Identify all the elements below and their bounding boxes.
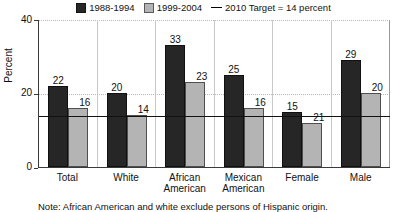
bar-value-label: 22 bbox=[53, 75, 64, 86]
bars-male: 29 20 bbox=[332, 20, 391, 167]
y-tick-label-40: 40 bbox=[4, 15, 32, 25]
bar-group-white: 20 14 bbox=[98, 20, 157, 167]
bar-value-label: 29 bbox=[345, 49, 356, 60]
bar-total-1988-1994[interactable]: 22 bbox=[48, 86, 68, 167]
chart-legend: 1988-1994 1999-2004 2010 Target = 14 per… bbox=[0, 1, 407, 15]
bar-value-label: 15 bbox=[287, 101, 298, 112]
legend-line-icon bbox=[211, 7, 222, 8]
x-label-male: Male bbox=[331, 172, 390, 194]
x-label-line: American bbox=[155, 183, 214, 194]
bar-female-1999-2004[interactable]: 21 bbox=[302, 123, 322, 167]
x-label-female: Female bbox=[273, 172, 332, 194]
x-label-mexican-american: Mexican American bbox=[214, 172, 273, 194]
bars-african-american: 33 23 bbox=[156, 20, 215, 167]
bars-total: 22 16 bbox=[39, 20, 98, 167]
bars-mexican-american: 25 16 bbox=[215, 20, 274, 167]
bar-group-total: 22 16 bbox=[39, 20, 98, 167]
bar-value-label: 25 bbox=[228, 64, 239, 75]
bars-white: 20 14 bbox=[98, 20, 157, 167]
x-label-african-american: African American bbox=[155, 172, 214, 194]
bar-value-label: 33 bbox=[170, 34, 181, 45]
bar-female-1988-1994[interactable]: 15 bbox=[282, 112, 302, 168]
y-axis-title: Percent bbox=[3, 31, 14, 101]
bar-mexican-american-1988-1994[interactable]: 25 bbox=[224, 75, 244, 168]
legend-label-target: 2010 Target = 14 percent bbox=[225, 3, 331, 13]
x-label-white: White bbox=[97, 172, 156, 194]
bars-female: 15 21 bbox=[273, 20, 332, 167]
legend-swatch-dark bbox=[76, 3, 86, 13]
x-label-total: Total bbox=[38, 172, 97, 194]
legend-item-1988-1994: 1988-1994 bbox=[76, 3, 134, 13]
legend-label-1988-1994: 1988-1994 bbox=[89, 3, 134, 13]
x-label-line: Female bbox=[273, 172, 332, 183]
legend-item-target-line: 2010 Target = 14 percent bbox=[211, 3, 331, 13]
chart-figure: 1988-1994 1999-2004 2010 Target = 14 per… bbox=[0, 0, 407, 212]
x-label-line: American bbox=[214, 183, 273, 194]
plot-area: 22 16 20 14 bbox=[38, 20, 390, 168]
bar-group-mexican-american: 25 16 bbox=[215, 20, 274, 167]
bar-african-american-1988-1994[interactable]: 33 bbox=[165, 45, 185, 167]
chart-note: Note: African American and white exclude… bbox=[38, 201, 407, 212]
x-label-line: Total bbox=[38, 172, 97, 183]
bar-group-female: 15 21 bbox=[273, 20, 332, 167]
bar-white-1988-1994[interactable]: 20 bbox=[107, 93, 127, 167]
bar-male-1999-2004[interactable]: 20 bbox=[361, 93, 381, 167]
x-label-line: Male bbox=[331, 172, 390, 183]
bar-value-label: 20 bbox=[111, 82, 122, 93]
x-label-line: African bbox=[155, 172, 214, 183]
bar-african-american-1999-2004[interactable]: 23 bbox=[185, 82, 205, 167]
x-label-line: Mexican bbox=[214, 172, 273, 183]
legend-swatch-light bbox=[144, 3, 154, 13]
bar-male-1988-1994[interactable]: 29 bbox=[341, 60, 361, 167]
y-tick-label-0: 0 bbox=[4, 162, 32, 172]
legend-item-1999-2004: 1999-2004 bbox=[144, 3, 202, 13]
bar-value-label: 23 bbox=[196, 71, 207, 82]
x-axis-labels: Total White African American Mexican Ame… bbox=[38, 172, 390, 194]
bar-group-african-american: 33 23 bbox=[156, 20, 215, 167]
bar-value-label: 16 bbox=[79, 97, 90, 108]
bar-groups: 22 16 20 14 bbox=[39, 20, 390, 167]
bar-group-male: 29 20 bbox=[332, 20, 391, 167]
legend-label-1999-2004: 1999-2004 bbox=[157, 3, 202, 13]
bar-value-label: 14 bbox=[138, 104, 149, 115]
y-tick-mark-0 bbox=[34, 168, 38, 169]
x-label-line: White bbox=[97, 172, 156, 183]
bar-value-label: 20 bbox=[372, 82, 383, 93]
bar-value-label: 16 bbox=[255, 97, 266, 108]
target-line-14-percent bbox=[39, 116, 390, 117]
bar-white-1999-2004[interactable]: 14 bbox=[127, 115, 147, 167]
